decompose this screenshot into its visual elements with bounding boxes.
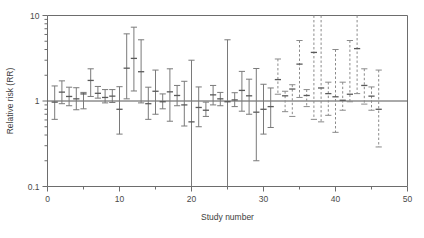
study-interval <box>52 86 58 119</box>
study-interval <box>196 87 202 127</box>
study-interval <box>138 40 144 103</box>
y-tick-label: 0.1 <box>28 182 40 192</box>
y-tick-label: 10 <box>30 11 40 21</box>
study-interval <box>275 59 281 94</box>
study-interval <box>217 92 223 105</box>
study-interval <box>66 87 72 106</box>
study-interval <box>260 84 266 134</box>
study-interval <box>95 86 101 98</box>
study-interval <box>376 70 382 147</box>
study-interval <box>116 87 122 134</box>
x-tick-label: 30 <box>259 194 269 204</box>
x-tick-label: 10 <box>115 194 125 204</box>
study-interval <box>124 34 130 99</box>
study-interval <box>224 40 230 187</box>
y-tick-label: 1 <box>35 96 40 106</box>
x-tick-label: 40 <box>331 194 341 204</box>
study-interval <box>246 79 252 114</box>
study-interval <box>296 41 302 98</box>
chart-canvas: 0.111001020304050Study numberRelative ri… <box>0 0 424 238</box>
study-interval <box>368 87 374 110</box>
study-interval <box>174 85 180 105</box>
study-interval <box>203 102 209 116</box>
study-interval <box>354 16 360 94</box>
study-interval <box>152 70 158 114</box>
study-interval <box>73 88 79 110</box>
y-axis-title: Relative risk (RR) <box>5 68 15 135</box>
forest-plot-figure: 0.111001020304050Study numberRelative ri… <box>0 0 424 238</box>
study-interval <box>304 90 310 107</box>
study-interval <box>253 68 259 160</box>
study-interval <box>268 88 274 128</box>
study-interval <box>318 16 324 122</box>
study-interval <box>325 82 331 115</box>
study-interval <box>59 81 65 104</box>
study-interval <box>340 82 346 110</box>
study-interval <box>145 87 151 119</box>
study-interval <box>181 81 187 126</box>
study-interval <box>167 69 173 121</box>
study-interval <box>332 50 338 133</box>
study-interval <box>131 27 137 91</box>
series-solid <box>52 27 274 186</box>
x-tick-label: 0 <box>45 194 50 204</box>
study-interval <box>88 69 94 97</box>
x-tick-label: 20 <box>187 194 197 204</box>
x-axis-title: Study number <box>201 212 254 222</box>
x-tick-label: 50 <box>403 194 413 204</box>
study-interval <box>239 71 245 111</box>
series-dashed <box>275 16 382 147</box>
study-interval <box>160 94 166 109</box>
study-interval <box>188 60 194 186</box>
study-interval <box>361 69 367 104</box>
study-interval <box>347 41 353 102</box>
study-interval <box>210 85 216 104</box>
study-interval <box>311 16 317 120</box>
study-interval <box>232 93 238 107</box>
